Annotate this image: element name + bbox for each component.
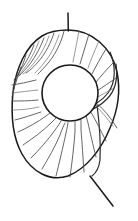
- umbilicus-circle: [42, 65, 98, 121]
- shell-drawing-svg: [0, 0, 138, 221]
- shell-figure-root: Ammonoid shell line drawing coiled cepha…: [0, 0, 138, 221]
